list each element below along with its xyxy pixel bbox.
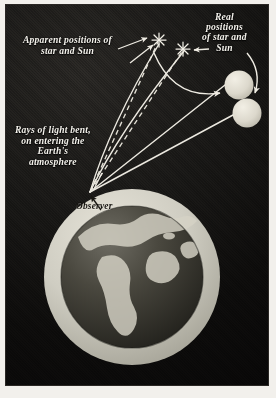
- apparent-star-marker: [152, 33, 166, 47]
- real-sun-disc: [233, 99, 262, 128]
- apparent-label-leader: [118, 38, 147, 49]
- earth-group: [44, 189, 220, 365]
- real-label-leader: [194, 49, 209, 50]
- diagram-artwork: [6, 5, 269, 386]
- refraction-arc-arrow: [154, 53, 220, 94]
- figure-plate: Apparent positions of star and Sun Real …: [0, 0, 276, 398]
- bent-ray-sun: [90, 51, 184, 192]
- real-star-disc: [225, 71, 254, 100]
- apparent-ray-to-sun: [90, 50, 183, 192]
- real-ray-lines: [90, 85, 233, 192]
- plate-frame: Apparent positions of star and Sun Real …: [5, 4, 269, 386]
- bent-ray-star: [90, 44, 159, 192]
- apparent-sun-marker: [176, 42, 190, 56]
- apparent-ray-to-star: [90, 42, 158, 192]
- bent-ray-lines: [90, 44, 184, 192]
- apparent-ray-lines: [90, 42, 183, 192]
